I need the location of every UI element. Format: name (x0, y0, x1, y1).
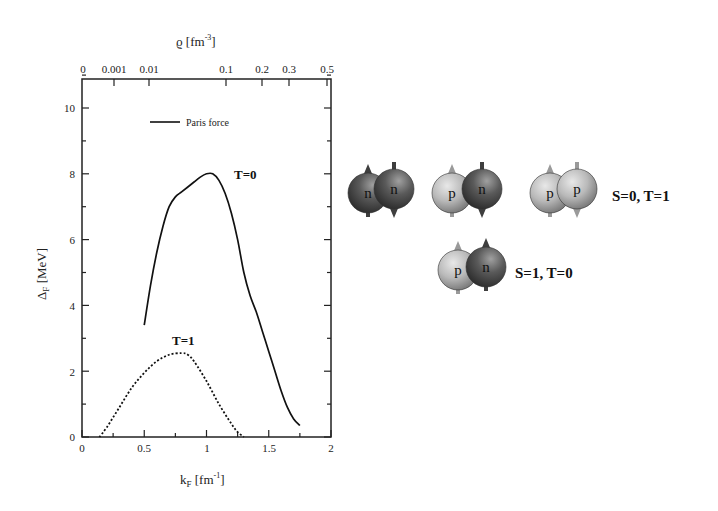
y-tick-label: 4 (70, 300, 76, 312)
top-axis-title: ϱ [fm-3] (176, 33, 216, 49)
top-tick-label: 0.001 (102, 63, 127, 75)
x-axis-labels: 0 0.5 1 1.5 2 (79, 442, 334, 454)
particle-letter: n (364, 185, 372, 201)
curve-label-t1: T=1 (172, 333, 195, 348)
y-tick-label: 6 (70, 234, 76, 246)
nucleon-pair: pn (432, 162, 502, 218)
figure: 0 0.5 1 1.5 2 kF [fm-1] 0 2 4 6 8 10 ΔF … (0, 0, 718, 511)
state-label-singlet: S=0, T=1 (612, 188, 670, 204)
plot-frame (82, 79, 331, 437)
y-tick-label: 10 (64, 102, 76, 114)
y-axis-labels: 0 2 4 6 8 10 (64, 102, 76, 443)
particle-letter: p (448, 185, 456, 201)
y-tick-label: 2 (70, 366, 76, 378)
top-tick-label: 0.3 (282, 63, 296, 75)
x-tick-label: 1 (204, 442, 210, 454)
neutron-sphere: n (374, 162, 414, 218)
x-tick-label: 1.5 (262, 442, 276, 454)
state-label-triplet: S=1, T=0 (515, 265, 573, 281)
particle-letter: p (573, 181, 581, 197)
particle-letter: p (454, 262, 462, 278)
x-axis-title: kF [fm-1] (180, 471, 225, 489)
curve-label-t0: T=0 (234, 167, 257, 182)
top-tick-label: 0.2 (255, 63, 269, 75)
top-tick-label: 0.1 (219, 63, 233, 75)
proton-sphere: p (557, 162, 597, 218)
nucleon-pair: pn (438, 238, 506, 294)
nucleon-pair: nn (348, 162, 414, 218)
x-tick-label: 2 (328, 442, 334, 454)
top-tick-label: 0.5 (320, 63, 334, 75)
particle-letter: p (546, 185, 554, 201)
x-tick-label: 0 (79, 442, 85, 454)
y-axis-title: ΔF [MeV] (34, 248, 51, 300)
top-axis-labels: 0 0.001 0.01 0.1 0.2 0.3 0.5 (80, 63, 334, 75)
y-tick-label: 0 (70, 431, 76, 443)
y-tick-label: 8 (70, 168, 76, 180)
plot-area (82, 75, 331, 437)
particle-letter: n (482, 259, 490, 275)
nucleon-pair: pp (530, 162, 597, 218)
top-tick-label: 0 (80, 63, 86, 75)
neutron-sphere: n (462, 162, 502, 218)
particle-letter: n (478, 181, 486, 197)
top-tick-label: 0.01 (139, 63, 158, 75)
x-tick-label: 0.5 (137, 442, 151, 454)
particle-letter: n (390, 181, 398, 197)
legend-label: Paris force (186, 117, 230, 128)
